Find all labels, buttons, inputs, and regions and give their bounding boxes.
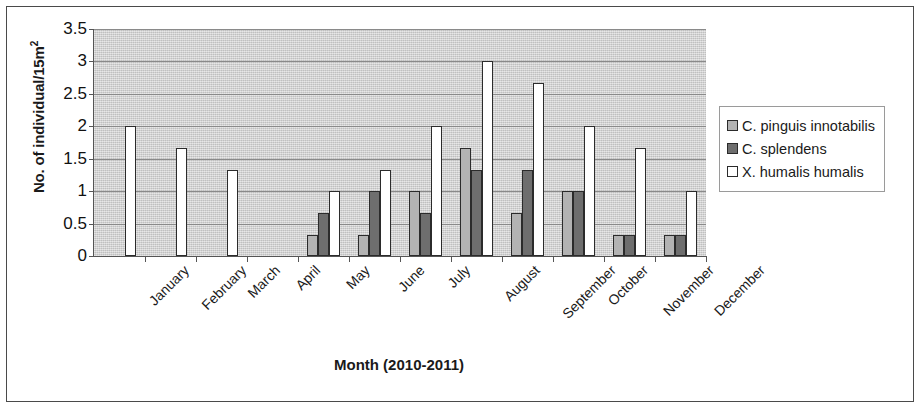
bar [358, 235, 369, 256]
x-axis-tick-label: January [145, 262, 192, 309]
bar [522, 170, 533, 256]
bar [125, 126, 136, 256]
bar [511, 213, 522, 256]
bar-cluster [247, 29, 298, 256]
bar-cluster [94, 29, 145, 256]
chart-figure: No. of individual/15m2 00.511.522.533.5 … [0, 0, 920, 409]
bar [329, 191, 340, 256]
x-axis-tick-label: December [710, 262, 767, 319]
bar [686, 191, 697, 256]
bar [482, 61, 493, 256]
bar [380, 170, 391, 256]
legend-item[interactable]: C. pinguis innotabilis [727, 114, 875, 137]
legend-item[interactable]: X. humalis humalis [727, 160, 875, 183]
bar [176, 148, 187, 256]
bar-cluster [400, 29, 451, 256]
x-axis-tick-label: April [292, 262, 323, 293]
bar-cluster [298, 29, 349, 256]
x-axis-title: Month (2010-2011) [93, 356, 705, 373]
y-axis-tick-label: 2.5 [63, 84, 87, 104]
bar [635, 148, 646, 256]
plot-area: 00.511.522.533.5 [93, 29, 706, 257]
legend-label: C. splendens [742, 141, 827, 157]
y-axis-title: No. of individual/15m2 [29, 0, 47, 237]
x-axis-tick-label: May [342, 262, 372, 292]
legend-label: X. humalis humalis [742, 164, 864, 180]
legend-label: C. pinguis innotabilis [742, 118, 875, 134]
legend-swatch-icon [727, 166, 738, 177]
y-axis-tick-label: 0.5 [63, 214, 87, 234]
bar [562, 191, 573, 256]
bar [573, 191, 584, 256]
bar [460, 148, 471, 256]
bar [613, 235, 624, 256]
y-axis-title-text: No. of individual/15m [30, 46, 47, 193]
chart-legend: C. pinguis innotabilisC. splendensX. hum… [719, 106, 885, 192]
x-axis-tick-label: August [500, 262, 542, 304]
bar-cluster [655, 29, 706, 256]
bar-cluster [502, 29, 553, 256]
legend-item[interactable]: C. splendens [727, 137, 875, 160]
bar-cluster [196, 29, 247, 256]
y-axis-tick-label: 3 [78, 51, 87, 71]
bar-cluster [451, 29, 502, 256]
bar [624, 235, 635, 256]
bar-cluster [145, 29, 196, 256]
x-axis-tick-label: February [198, 262, 249, 313]
y-axis-tick-label: 1 [78, 181, 87, 201]
x-axis-tick-label: November [659, 262, 716, 319]
x-axis-tick-label: June [394, 262, 427, 295]
bar [409, 191, 420, 256]
y-axis-tick-label: 1.5 [63, 149, 87, 169]
bar [584, 126, 595, 256]
bar-cluster [604, 29, 655, 256]
y-axis-tick-label: 3.5 [63, 19, 87, 39]
x-axis-tick-label: July [444, 262, 473, 291]
bar-cluster [349, 29, 400, 256]
bar [420, 213, 431, 256]
bar [533, 83, 544, 256]
bar [431, 126, 442, 256]
bar [664, 235, 675, 256]
legend-swatch-icon [727, 120, 738, 131]
bar [307, 235, 318, 256]
bar [471, 170, 482, 256]
bar [227, 170, 238, 256]
x-axis-tick-label: March [244, 262, 283, 301]
bar [318, 213, 329, 256]
x-axis-tick-labels: JanuaryFebruaryMarchAprilMayJuneJulyAugu… [93, 262, 705, 347]
bar [369, 191, 380, 256]
y-axis-tick-mark [89, 256, 94, 257]
bar-cluster [553, 29, 604, 256]
y-axis-title-superscript: 2 [29, 41, 40, 46]
legend-swatch-icon [727, 143, 738, 154]
bar [675, 235, 686, 256]
y-axis-tick-label: 2 [78, 116, 87, 136]
y-axis-tick-label: 0 [78, 246, 87, 266]
